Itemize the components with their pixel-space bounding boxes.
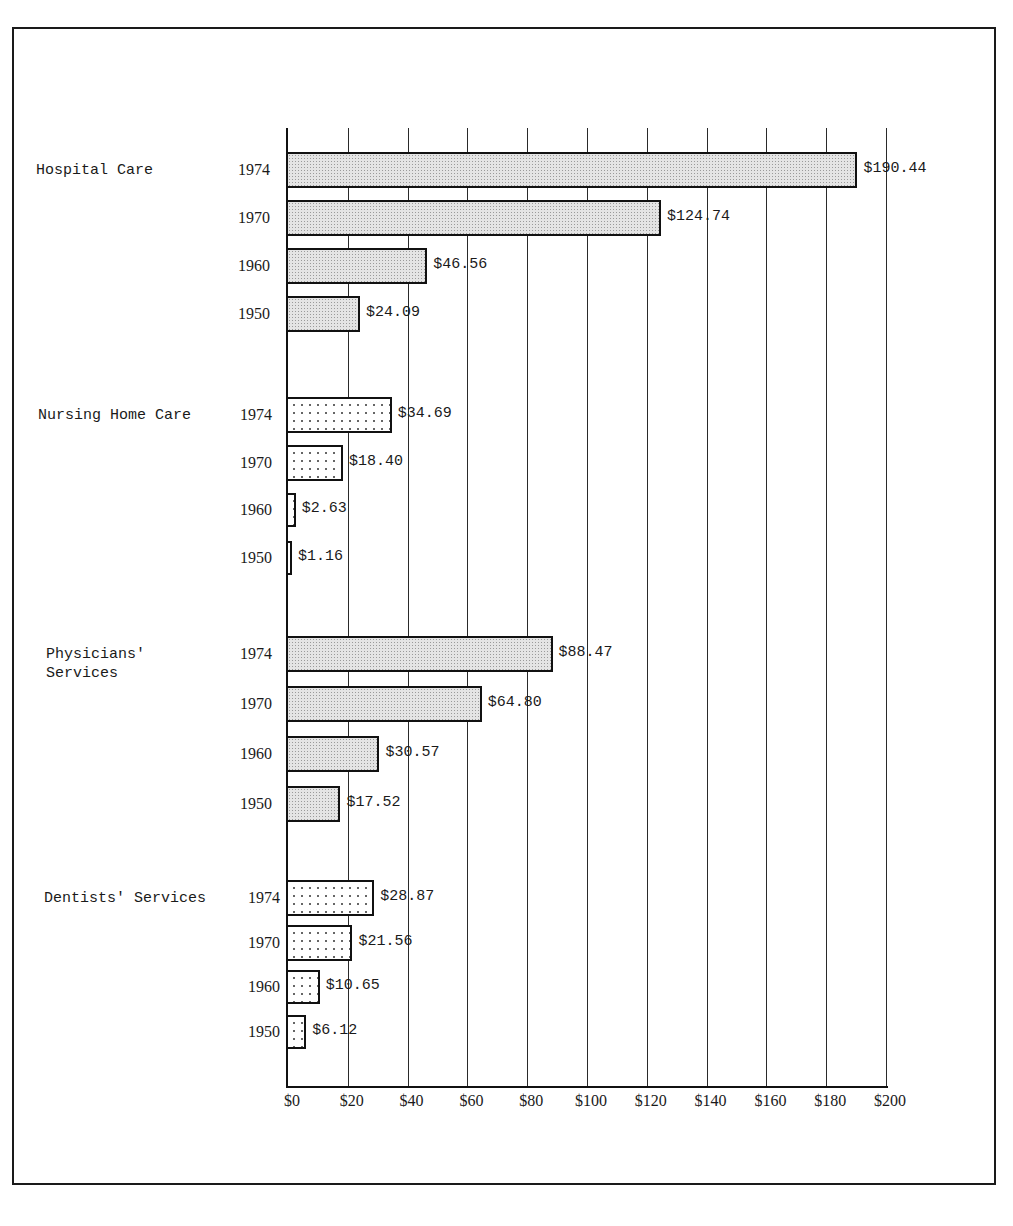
value-label: $18.40 xyxy=(349,453,403,471)
value-label: $88.47 xyxy=(559,644,613,662)
bar xyxy=(286,248,427,284)
year-label: 1950 xyxy=(220,305,270,323)
bar xyxy=(286,541,292,575)
year-label: 1950 xyxy=(222,795,272,813)
gridline xyxy=(587,128,588,1086)
year-label: 1960 xyxy=(220,257,270,275)
bar xyxy=(286,970,320,1004)
year-label: 1970 xyxy=(230,934,280,952)
value-label: $46.56 xyxy=(433,256,487,274)
category-label: Nursing Home Care xyxy=(38,406,191,425)
bar xyxy=(286,686,482,722)
bar xyxy=(286,1015,306,1049)
year-label: 1970 xyxy=(222,454,272,472)
bar xyxy=(286,786,340,822)
bar xyxy=(286,880,374,916)
value-label: $124.74 xyxy=(667,208,730,226)
bar xyxy=(286,200,661,236)
value-label: $34.69 xyxy=(398,405,452,423)
year-label: 1960 xyxy=(230,978,280,996)
value-label: $64.80 xyxy=(488,694,542,712)
value-label: $190.44 xyxy=(863,160,926,178)
category-label: Physicians' Services xyxy=(46,645,145,683)
gridline xyxy=(886,128,887,1086)
x-tick-label: $140 xyxy=(695,1092,727,1110)
bar-chart: $0$20$40$60$80$100$120$140$160$180$200Ho… xyxy=(0,0,1013,1226)
gridline xyxy=(826,128,827,1086)
value-label: $2.63 xyxy=(302,500,347,518)
gridline xyxy=(707,128,708,1086)
value-label: $6.12 xyxy=(312,1022,357,1040)
x-tick-label: $0 xyxy=(284,1092,300,1110)
year-label: 1974 xyxy=(220,161,270,179)
value-label: $21.56 xyxy=(358,933,412,951)
bar xyxy=(286,152,857,188)
x-axis xyxy=(286,1086,888,1088)
bar xyxy=(286,736,379,772)
gridline xyxy=(766,128,767,1086)
year-label: 1960 xyxy=(222,501,272,519)
gridline xyxy=(647,128,648,1086)
bar xyxy=(286,445,343,481)
bar xyxy=(286,925,352,961)
year-label: 1950 xyxy=(222,549,272,567)
year-label: 1974 xyxy=(222,645,272,663)
bar xyxy=(286,493,296,527)
bar xyxy=(286,397,392,433)
category-label: Hospital Care xyxy=(36,161,153,180)
year-label: 1950 xyxy=(230,1023,280,1041)
x-tick-label: $40 xyxy=(400,1092,424,1110)
x-tick-label: $160 xyxy=(754,1092,786,1110)
year-label: 1974 xyxy=(230,889,280,907)
x-tick-label: $180 xyxy=(814,1092,846,1110)
x-tick-label: $200 xyxy=(874,1092,906,1110)
year-label: 1974 xyxy=(222,406,272,424)
bar xyxy=(286,296,360,332)
value-label: $30.57 xyxy=(385,744,439,762)
x-tick-label: $80 xyxy=(519,1092,543,1110)
value-label: $10.65 xyxy=(326,977,380,995)
value-label: $28.87 xyxy=(380,888,434,906)
category-label: Dentists' Services xyxy=(44,889,206,908)
value-label: $1.16 xyxy=(298,548,343,566)
gridline xyxy=(527,128,528,1086)
bar xyxy=(286,636,553,672)
x-tick-label: $60 xyxy=(459,1092,483,1110)
x-tick-label: $120 xyxy=(635,1092,667,1110)
year-label: 1970 xyxy=(220,209,270,227)
x-tick-label: $20 xyxy=(340,1092,364,1110)
year-label: 1970 xyxy=(222,695,272,713)
x-tick-label: $100 xyxy=(575,1092,607,1110)
value-label: $24.09 xyxy=(366,304,420,322)
value-label: $17.52 xyxy=(346,794,400,812)
year-label: 1960 xyxy=(222,745,272,763)
